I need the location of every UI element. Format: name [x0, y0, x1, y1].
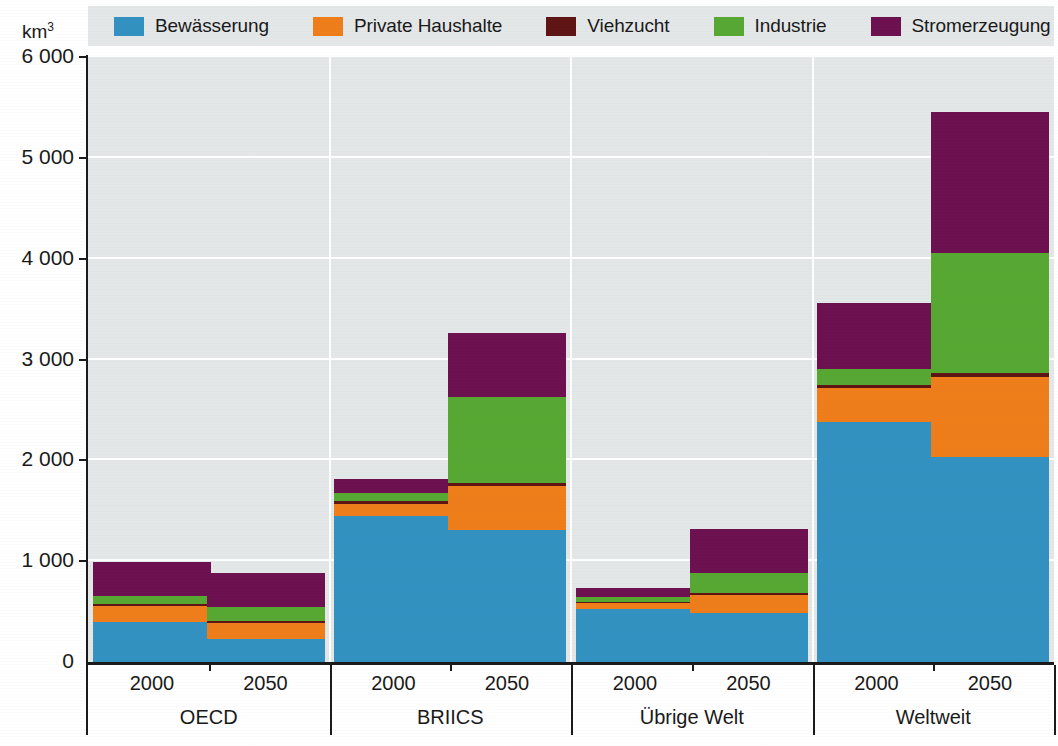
x-year-label-weltweit-2000: 2000 — [816, 672, 936, 695]
bar-segment-private-haushalte — [207, 623, 325, 640]
bar-segment-stromerzeugung — [448, 333, 566, 397]
bar-segment-industrie — [690, 573, 808, 593]
bar-übrige-welt-2000[interactable] — [576, 588, 694, 662]
y-tick-label-5000: 5 000 — [0, 145, 74, 169]
bar-segment-viehzucht — [207, 621, 325, 623]
bar-segment-viehzucht — [448, 483, 566, 486]
bar-segment-private-haushalte — [93, 606, 211, 622]
y-tick-label-1000: 1 000 — [0, 548, 74, 572]
plot-area — [88, 57, 1054, 662]
bar-segment-private-haushalte — [690, 595, 808, 613]
x-year-label-briics-2050: 2050 — [447, 672, 567, 695]
bar-segment-bewässerung — [817, 422, 935, 662]
y-tick-label-6000: 6 000 — [0, 44, 74, 68]
bar-segment-industrie — [931, 253, 1049, 373]
x-tick-mid-oecd — [209, 662, 211, 671]
x-group-label-briics: BRIICS — [325, 706, 575, 729]
y-tick-mark-2000 — [79, 459, 88, 461]
legend-label-livestock: Viehzucht — [587, 15, 669, 37]
x-tick-mid-briics — [450, 662, 452, 671]
bar-briics-2050[interactable] — [448, 333, 566, 662]
x-year-label-oecd-2050: 2050 — [206, 672, 326, 695]
bar-segment-stromerzeugung — [334, 479, 452, 494]
y-tick-label-4000: 4 000 — [0, 246, 74, 270]
bar-segment-stromerzeugung — [931, 112, 1049, 252]
bar-segment-private-haushalte — [931, 377, 1049, 457]
bar-übrige-welt-2050[interactable] — [690, 529, 808, 662]
legend-swatch-irrigation — [114, 17, 144, 36]
bar-briics-2000[interactable] — [334, 478, 452, 662]
legend-item-irrigation[interactable]: Bewässerung — [114, 15, 269, 37]
vertical-gridline-0 — [329, 57, 331, 662]
legend-swatch-industry — [714, 17, 744, 36]
bar-segment-private-haushalte — [334, 504, 452, 516]
x-group-label-weltweit: Weltweit — [808, 706, 1058, 729]
bar-segment-bewässerung — [690, 613, 808, 662]
x-year-label-weltweit-2050: 2050 — [930, 672, 1050, 695]
bar-segment-private-haushalte — [817, 388, 935, 422]
legend-swatch-households — [313, 17, 343, 36]
legend-swatch-livestock — [546, 17, 576, 36]
x-year-label-übrige-welt-2000: 2000 — [575, 672, 695, 695]
y-axis-unit-label: km3 — [22, 20, 54, 43]
bar-segment-bewässerung — [334, 516, 452, 662]
bar-segment-industrie — [93, 596, 211, 604]
x-group-label-oecd: OECD — [84, 706, 334, 729]
legend-label-irrigation: Bewässerung — [155, 15, 269, 37]
y-tick-label-2000: 2 000 — [0, 447, 74, 471]
y-tick-mark-5000 — [79, 157, 88, 159]
bar-segment-industrie — [334, 493, 452, 501]
legend-label-households: Private Haushalte — [354, 15, 502, 37]
bar-segment-industrie — [576, 597, 694, 601]
bar-segment-viehzucht — [93, 604, 211, 606]
y-tick-mark-3000 — [79, 359, 88, 361]
y-tick-mark-1000 — [79, 560, 88, 562]
bar-segment-stromerzeugung — [817, 303, 935, 369]
y-tick-mark-6000 — [79, 56, 88, 58]
x-year-label-oecd-2000: 2000 — [92, 672, 212, 695]
vertical-gridline-2 — [812, 57, 814, 662]
bar-weltweit-2000[interactable] — [817, 303, 935, 662]
unit-text: km — [22, 21, 47, 42]
x-axis-start-separator — [86, 665, 88, 735]
legend-label-electricity: Stromerzeugung — [912, 15, 1051, 37]
bar-segment-viehzucht — [817, 385, 935, 388]
x-tick-mid-weltweit — [933, 662, 935, 671]
bar-segment-bewässerung — [576, 609, 694, 662]
x-axis-end-separator — [1054, 665, 1056, 735]
bar-segment-stromerzeugung — [690, 529, 808, 573]
unit-exponent: 3 — [47, 20, 54, 34]
bar-segment-industrie — [817, 369, 935, 385]
bar-segment-stromerzeugung — [576, 588, 694, 597]
bar-segment-stromerzeugung — [207, 573, 325, 607]
bar-segment-stromerzeugung — [93, 562, 211, 596]
bar-segment-industrie — [448, 397, 566, 483]
x-year-label-briics-2000: 2000 — [333, 672, 453, 695]
x-axis-line — [86, 662, 1054, 665]
y-tick-label-3000: 3 000 — [0, 347, 74, 371]
bar-segment-bewässerung — [931, 457, 1049, 662]
bar-segment-viehzucht — [334, 501, 452, 504]
bar-oecd-2000[interactable] — [93, 562, 211, 662]
legend-label-industry: Industrie — [755, 15, 827, 37]
legend-item-electricity[interactable]: Stromerzeugung — [871, 15, 1051, 37]
bar-segment-private-haushalte — [448, 486, 566, 530]
bar-segment-bewässerung — [93, 622, 211, 662]
vertical-gridline-1 — [570, 57, 572, 662]
chart-figure: km3 BewässerungPrivate HaushalteViehzuch… — [0, 0, 1058, 746]
legend-item-livestock[interactable]: Viehzucht — [546, 15, 669, 37]
bar-segment-bewässerung — [207, 639, 325, 662]
bar-segment-industrie — [207, 607, 325, 621]
y-tick-mark-4000 — [79, 258, 88, 260]
legend-swatch-electricity — [871, 17, 901, 36]
bar-segment-viehzucht — [931, 373, 1049, 378]
x-tick-mid-übrige-welt — [692, 662, 694, 671]
legend-item-households[interactable]: Private Haushalte — [313, 15, 502, 37]
bar-segment-bewässerung — [448, 530, 566, 662]
bar-segment-viehzucht — [690, 593, 808, 595]
bar-oecd-2050[interactable] — [207, 573, 325, 662]
bar-weltweit-2050[interactable] — [931, 112, 1049, 662]
chart-legend: BewässerungPrivate HaushalteViehzuchtInd… — [88, 6, 1054, 46]
legend-item-industry[interactable]: Industrie — [714, 15, 827, 37]
x-year-label-übrige-welt-2050: 2050 — [689, 672, 809, 695]
